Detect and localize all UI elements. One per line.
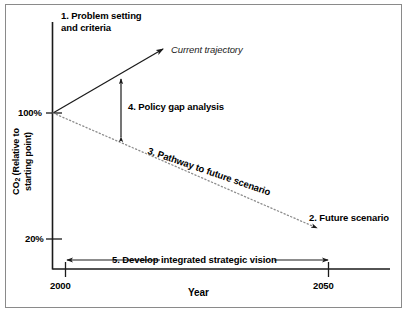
y-axis-title-starting-point: starting point) — [23, 132, 33, 191]
annotation-step1-line1: 1. Problem setting — [61, 10, 142, 21]
x-axis-tick-label-2050: 2050 — [313, 280, 334, 292]
y-axis-title: CO2 (Relative tostarting point) — [11, 107, 34, 217]
annotation-step4-policy-gap: 4. Policy gap analysis — [128, 101, 224, 113]
annotation-step2-future-scenario: 2. Future scenario — [309, 212, 389, 224]
annotation-step1: 1. Problem settingand criteria — [61, 10, 142, 34]
annotation-step5-develop-vision: 5. Develop integrated strategic vision — [112, 254, 277, 266]
annotation-step1-line2: and criteria — [61, 22, 111, 33]
annotation-current-trajectory: Current trajectory — [171, 44, 243, 56]
y-axis-title-relative: (Relative to — [11, 128, 21, 178]
y-axis-title-co2: CO — [11, 182, 21, 195]
y-axis-tick-label-20: 20% — [25, 233, 44, 245]
x-axis-tick-label-2000: 2000 — [50, 280, 71, 292]
figure-canvas: 1. Problem settingand criteria Current t… — [0, 0, 408, 313]
x-axis-title: Year — [188, 287, 209, 299]
pathway-line — [53, 113, 317, 228]
y-axis-title-subscript: 2 — [14, 178, 21, 182]
